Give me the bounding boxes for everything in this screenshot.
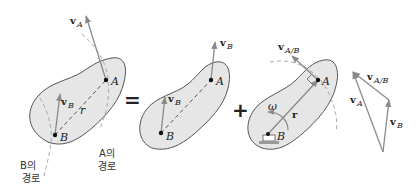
va-label: v [219, 37, 227, 48]
relative-velocity-diagram: A B r v A v B A의 경로 B의 경로 = A B v B v B … [0, 0, 416, 193]
triangle-va-label: v [349, 94, 357, 105]
point-b-dot [159, 131, 163, 135]
r-label: r [292, 109, 298, 120]
triangle-vab-subscript: A/B [373, 76, 388, 85]
panel-translation: A B v B v B [140, 37, 233, 149]
vb-label: v [167, 93, 175, 104]
point-b-dot [266, 132, 270, 136]
path-b-label-1: B의 [20, 160, 36, 171]
rigid-body-shape [30, 58, 126, 144]
path-a-label-2: 경로 [98, 160, 116, 172]
point-b-dot [53, 133, 57, 137]
point-a-label: A [215, 75, 224, 88]
equals-sign: = [124, 88, 141, 112]
pin-support [263, 135, 275, 141]
triangle-vb-subscript: B [396, 121, 403, 130]
panel-total-motion: A B r v A v B A의 경로 B의 경로 [20, 15, 126, 184]
va-label: v [69, 15, 77, 26]
path-b-label-2: 경로 [22, 172, 40, 184]
point-a-dot [209, 78, 213, 82]
plus-sign: + [232, 98, 249, 122]
point-a-label: A [321, 75, 330, 88]
point-b-label: B [59, 131, 68, 144]
ground-hatch [259, 141, 279, 144]
panel-rotation: A B r ω v A/B [248, 41, 338, 149]
vb-subscript: B [67, 101, 74, 110]
va-subscript: B [226, 42, 233, 51]
velocity-triangle: v A/B v A v B [349, 71, 403, 152]
point-a-dot [104, 78, 108, 82]
r-label: r [80, 104, 86, 117]
point-a-label: A [110, 75, 119, 88]
point-a-dot [316, 78, 320, 82]
point-b-label: B [165, 130, 174, 143]
triangle-va-subscript: A [356, 99, 363, 108]
triangle-vb-arrow [383, 100, 389, 152]
point-b-label: B [276, 130, 285, 143]
triangle-vb-label: v [389, 116, 397, 127]
vab-subscript: A/B [284, 46, 299, 55]
va-subscript: A [76, 20, 83, 29]
rigid-body-shape [248, 60, 338, 149]
vab-label: v [277, 41, 285, 52]
vb-subscript: B [174, 98, 181, 107]
triangle-vab-label: v [366, 71, 374, 82]
path-a-label-1: A의 [99, 148, 115, 159]
vb-label: v [60, 96, 68, 107]
omega-label: ω [268, 100, 277, 113]
